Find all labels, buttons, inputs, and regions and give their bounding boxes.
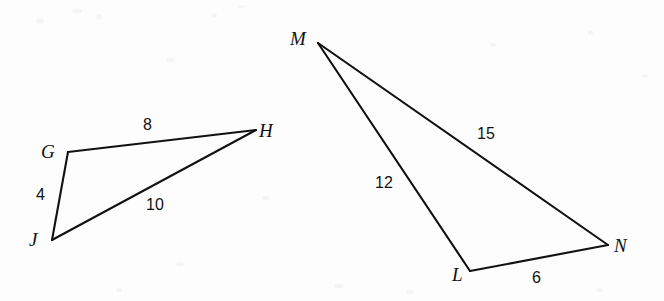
side-length-label-ln: 6 [532, 270, 541, 286]
side-length-label-gj: 4 [36, 187, 45, 203]
side-length-label-mn: 15 [477, 126, 495, 142]
side-length-label-ml: 12 [375, 175, 393, 191]
triangles-canvas [0, 0, 664, 301]
vertex-label-l: L [452, 265, 463, 284]
triangle-side-gj [52, 152, 68, 240]
vertex-label-n: N [614, 236, 627, 255]
triangle-side-gh [68, 130, 256, 152]
vertex-label-h: H [259, 121, 273, 140]
triangle-side-ln [470, 245, 608, 271]
side-length-label-gh: 8 [143, 117, 152, 133]
vertex-label-g: G [41, 142, 55, 161]
vertex-label-j: J [29, 230, 37, 249]
triangle-side-mn [318, 43, 608, 245]
side-length-label-jh: 10 [146, 197, 164, 213]
triangle-side-jh [52, 130, 256, 240]
geometry-figure: GHJ8410MLN15126 [0, 0, 664, 301]
vertex-label-m: M [290, 29, 306, 48]
triangle-side-ml [318, 43, 470, 271]
